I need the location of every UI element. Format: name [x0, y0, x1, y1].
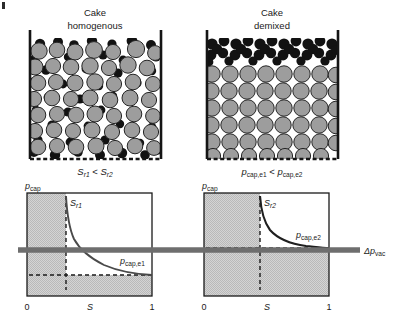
chart-right-xlabel: S: [264, 302, 270, 312]
chart-right-shade-bottom: [204, 248, 329, 296]
chart-right-curve-label: Sr2: [264, 198, 276, 209]
cake-right-title-line1: Cake: [261, 7, 283, 18]
chart-left: pcap Sr1 pcap,e1 0 S 1: [24, 181, 155, 312]
particle-cluster-large: [26, 40, 162, 155]
cake-left-caption: Sr1 < Sr2: [77, 166, 113, 178]
chart-right-ylabel: pcap: [201, 181, 218, 193]
cake-panel-right: Cake demixed: [203, 7, 344, 179]
cake-right-caption: pcap,e1 < pcap,e2: [240, 166, 302, 179]
chart-left-ylabel: pcap: [24, 181, 41, 193]
vacuum-pressure-label: Δpvac: [363, 246, 386, 257]
cake-left-particles: [26, 36, 162, 161]
chart-left-xlabel: S: [87, 302, 93, 312]
cake-panel-left: Cake homogenous: [26, 7, 162, 178]
chart-left-xtick-0: 0: [24, 302, 29, 312]
chart-left-curve-label: Sr1: [70, 198, 82, 209]
chart-right: pcap Sr2 pcap,e2 0 S 1: [201, 181, 332, 312]
chart-left-shade-bottom: [27, 275, 152, 296]
figure-canvas: Cake homogenous: [0, 0, 396, 321]
cake-left-title-line2: homogenous: [68, 20, 123, 31]
chart-right-plateau-label: pcap,e2: [295, 230, 321, 242]
chart-right-xtick-0: 0: [201, 302, 206, 312]
cake-right-title-line2: demixed: [254, 20, 290, 31]
particle-layer-large-bottom: [203, 66, 344, 164]
corner-mark: [2, 2, 5, 9]
chart-left-plateau-label: pcap,e1: [119, 256, 145, 268]
chart-left-xtick-1: 1: [149, 302, 154, 312]
particle-layer-small-top: [205, 36, 341, 67]
chart-right-xtick-1: 1: [326, 302, 331, 312]
figure-root: Cake homogenous: [0, 0, 396, 321]
cake-left-title-line1: Cake: [84, 7, 106, 18]
cake-right-particles: [203, 36, 344, 164]
